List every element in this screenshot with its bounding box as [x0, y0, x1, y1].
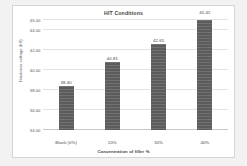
- x-tick-label: 20%: [89, 140, 135, 145]
- y-tick-label: 38.00: [30, 88, 41, 93]
- bar-slot: 42.65: [136, 20, 182, 130]
- x-axis-tick-labels: Blank (0%)20%30%40%: [43, 140, 228, 145]
- bar[interactable]: [197, 20, 212, 130]
- bar[interactable]: [105, 62, 120, 130]
- bar-slot: 38.40: [43, 20, 89, 130]
- bar-series: 38.4040.8142.6545.45: [43, 20, 228, 130]
- chart-plot-card: HIT Conditions Hardness voltage (kV) 34.…: [12, 5, 235, 158]
- y-tick-label: 36.00: [30, 108, 41, 113]
- y-tick-label: 45.00: [30, 18, 41, 23]
- bar[interactable]: [59, 86, 74, 130]
- bar-slot: 40.81: [89, 20, 135, 130]
- x-axis-title: Concentration of filler %: [13, 149, 234, 154]
- y-tick-label: 44.00: [30, 28, 41, 33]
- chart-figure: HIT Conditions Hardness voltage (kV) 34.…: [0, 0, 247, 166]
- x-tick-label: 40%: [182, 140, 228, 145]
- y-tick-label: 42.00: [30, 48, 41, 53]
- bar[interactable]: [151, 44, 166, 131]
- bar-value-label: 38.40: [61, 80, 72, 85]
- y-axis-title: Hardness voltage (kV): [18, 26, 23, 96]
- bar-slot: 45.45: [182, 20, 228, 130]
- plot-area: 34.0036.0038.0040.0042.0044.0045.00 38.4…: [43, 20, 228, 130]
- x-tick-label: 30%: [136, 140, 182, 145]
- y-tick-label: 40.00: [30, 68, 41, 73]
- bar-value-label: 40.81: [107, 56, 118, 61]
- bar-value-label: 42.65: [153, 38, 164, 43]
- y-tick-label: 34.00: [30, 128, 41, 133]
- bar-value-label: 45.45: [199, 10, 210, 15]
- x-tick-label: Blank (0%): [43, 140, 89, 145]
